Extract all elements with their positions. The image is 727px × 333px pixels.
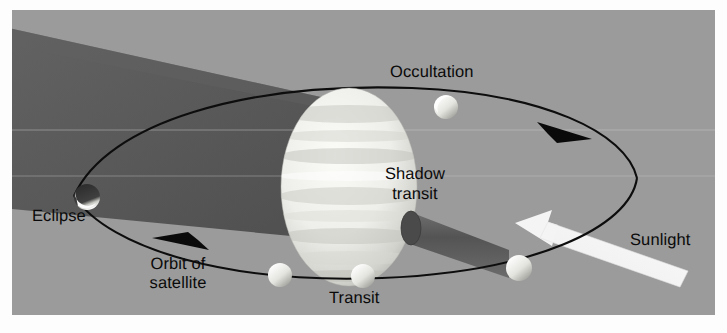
diagram-vector-layer — [12, 10, 715, 315]
label-orbit-line2: satellite — [130, 275, 226, 292]
satellite-orbit-left — [268, 263, 292, 287]
label-eclipse: Eclipse — [32, 208, 86, 225]
label-transit: Transit — [329, 290, 380, 307]
label-shadow-line2: transit — [367, 186, 463, 203]
label-orbit-line1: Orbit of — [130, 256, 226, 273]
satellite-shadow-cylinder — [401, 211, 509, 278]
satellite-occultation — [434, 95, 458, 119]
satellite-shadow-caster — [506, 255, 532, 281]
satellite-transit — [351, 264, 375, 288]
figure-canvas: Occultation Eclipse Orbit of satellite S… — [0, 0, 727, 333]
label-shadow-line1: Shadow — [367, 166, 463, 183]
diagram-scene: Occultation Eclipse Orbit of satellite S… — [12, 10, 715, 315]
label-sunlight: Sunlight — [630, 232, 690, 249]
label-occultation: Occultation — [390, 64, 474, 81]
orbit-direction-arrow-left — [152, 232, 209, 250]
